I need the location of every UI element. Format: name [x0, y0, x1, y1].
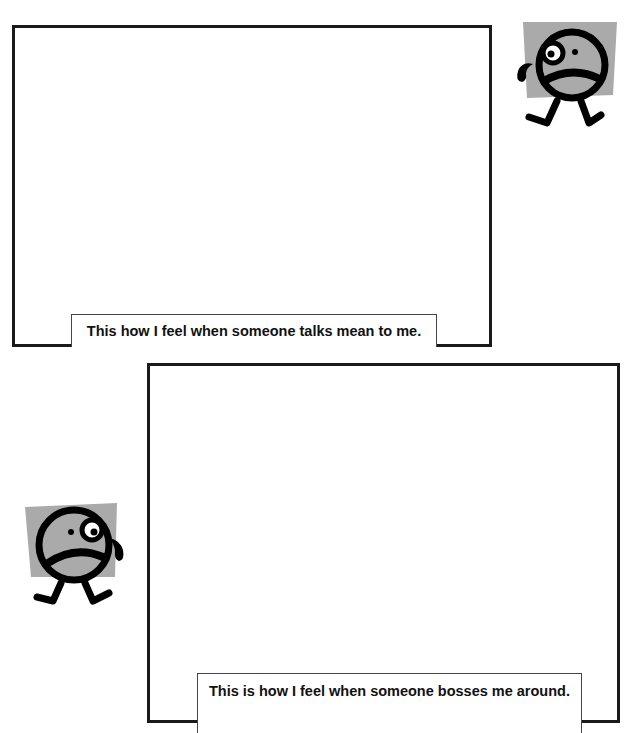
caption-box-1: This how I feel when someone talks mean … [71, 314, 437, 347]
drawing-box-1[interactable]: This how I feel when someone talks mean … [12, 25, 492, 347]
drawing-box-2[interactable]: This is how I feel when someone bosses m… [147, 363, 620, 723]
cut-off-title-fragment [410, 0, 610, 4]
caption-box-2: This is how I feel when someone bosses m… [197, 673, 582, 733]
sad-face-icon [15, 495, 140, 615]
caption-text-2: This is how I feel when someone bosses m… [209, 683, 570, 699]
caption-text-1: This how I feel when someone talks mean … [87, 323, 421, 339]
sad-face-icon [495, 15, 626, 135]
